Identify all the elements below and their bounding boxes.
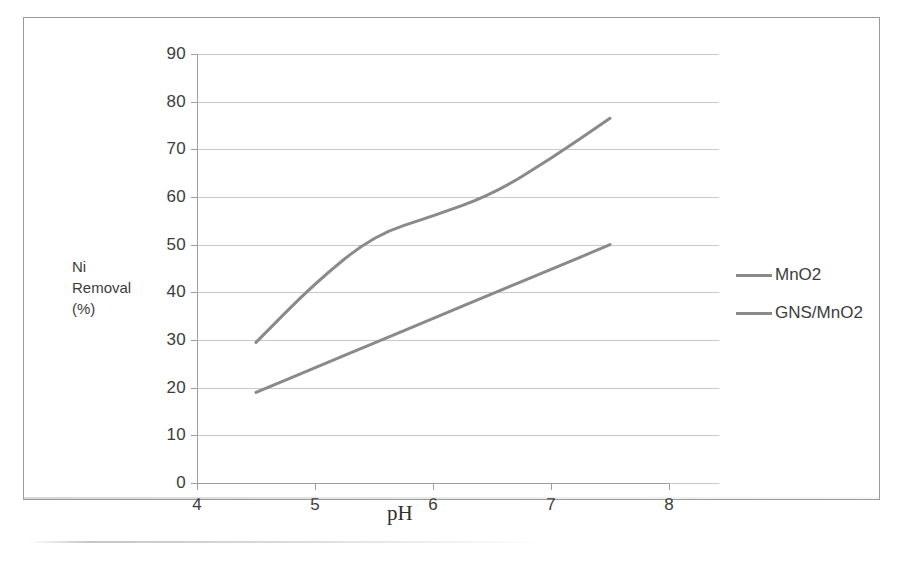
y-tick-label-50: 50: [166, 235, 186, 255]
legend-item-gns-mno2: GNS/MnO2: [736, 294, 886, 332]
y-tick-label-60: 60: [166, 187, 186, 207]
series-line-gns-mno2: [256, 245, 610, 393]
y-tick-label-90: 90: [166, 44, 186, 64]
plot-area: 0102030405060708090 45678: [197, 54, 669, 483]
y-tick-label-40: 40: [166, 282, 186, 302]
x-tick-5: [315, 483, 316, 490]
y-tick-label-70: 70: [166, 139, 186, 159]
x-tick-4: [197, 483, 198, 490]
legend-swatch-gns-mno2: [736, 312, 772, 315]
y-tick-label-0: 0: [176, 473, 186, 493]
x-tick-7: [551, 483, 552, 490]
y-tick-label-10: 10: [166, 425, 186, 445]
y-axis-title-line-1: Ni: [72, 256, 162, 277]
chart-legend: MnO2 GNS/MnO2: [736, 256, 886, 332]
legend-item-mno2: MnO2: [736, 256, 886, 294]
y-tick-label-30: 30: [166, 330, 186, 350]
series-lines: [197, 54, 669, 483]
y-axis-title-line-3: (%): [72, 298, 162, 319]
x-tick-6: [433, 483, 434, 490]
legend-label-gns-mno2: GNS/MnO2: [775, 303, 863, 323]
series-line-mno2: [256, 118, 610, 342]
legend-label-mno2: MnO2: [775, 265, 821, 285]
y-tick-label-20: 20: [166, 378, 186, 398]
scan-artifact-frame-shadow: [23, 497, 880, 499]
y-axis-title: Ni Removal (%): [72, 256, 162, 319]
x-axis-title: pH: [387, 501, 413, 526]
y-axis-title-line-2: Removal: [72, 277, 162, 298]
scan-artifact-smudge: [28, 541, 548, 543]
chart-frame: Ni Removal (%) pH 0102030405060708090 45…: [23, 17, 880, 500]
x-tick-8: [669, 483, 670, 490]
legend-swatch-mno2: [736, 274, 772, 277]
y-tick-label-80: 80: [166, 92, 186, 112]
figure-container: Ni Removal (%) pH 0102030405060708090 45…: [0, 0, 898, 563]
